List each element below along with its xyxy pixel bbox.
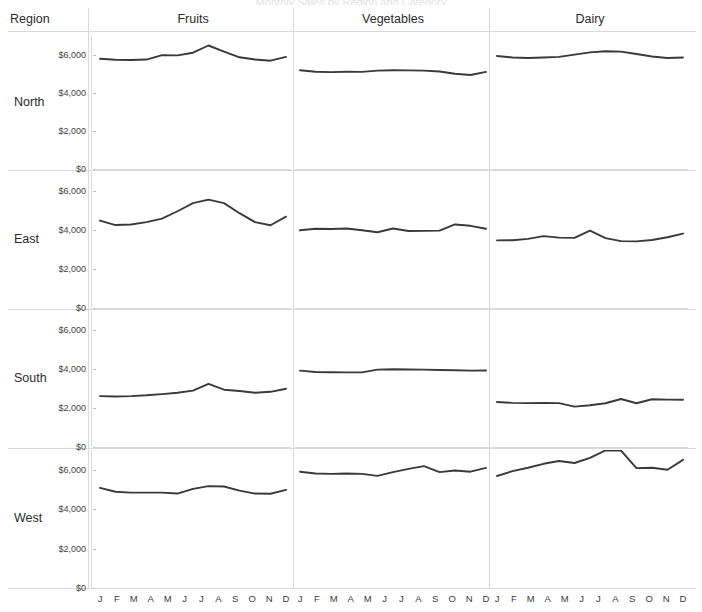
x-tick-label: J bbox=[593, 593, 603, 604]
panel-baseline bbox=[95, 588, 291, 589]
x-tick-label: J bbox=[295, 593, 305, 604]
x-tick-label: A bbox=[213, 593, 223, 604]
y-axis-line bbox=[91, 36, 92, 169]
x-tick-label: A bbox=[413, 593, 423, 604]
x-tick-label: M bbox=[329, 593, 339, 604]
y-axis-south: $6,000$4,000$2,000$0 bbox=[36, 311, 92, 447]
x-tick-label: J bbox=[95, 593, 105, 604]
y-axis-north: $6,000$4,000$2,000$0 bbox=[36, 36, 92, 169]
y-tick-label: $2,000 bbox=[58, 126, 86, 136]
row-separator-1 bbox=[8, 309, 696, 310]
series-path bbox=[300, 466, 486, 476]
x-tick-label: O bbox=[644, 593, 654, 604]
panel-north-vegetables bbox=[295, 36, 491, 169]
panel-west-fruits bbox=[95, 450, 291, 588]
y-axis-line bbox=[91, 450, 92, 588]
panel-north-fruits bbox=[95, 36, 291, 169]
x-tick-label: M bbox=[163, 593, 173, 604]
row-separator-2 bbox=[8, 448, 696, 449]
y-tick-label: $6,000 bbox=[58, 465, 86, 475]
facet-column-header-row: Region FruitsVegetablesDairy bbox=[0, 8, 702, 32]
x-tick-label: J bbox=[380, 593, 390, 604]
x-tick-label: N bbox=[661, 593, 671, 604]
line-series-north-fruits bbox=[95, 36, 291, 169]
series-path bbox=[497, 399, 683, 407]
chart-title: Monthly Sales by Region and Category bbox=[0, 0, 702, 5]
line-series-east-dairy bbox=[492, 172, 688, 308]
panel-west-dairy bbox=[492, 450, 688, 588]
y-tick-label: $6,000 bbox=[58, 50, 86, 60]
x-tick-label: N bbox=[264, 593, 274, 604]
panel-baseline bbox=[95, 308, 291, 309]
line-series-west-vegetables bbox=[295, 450, 491, 588]
line-series-west-dairy bbox=[492, 450, 688, 588]
x-tick-label: J bbox=[180, 593, 190, 604]
panel-baseline bbox=[95, 169, 291, 170]
faceted-line-chart: Monthly Sales by Region and Category Reg… bbox=[0, 0, 702, 612]
x-axis-labels-dairy: JFMAMJJASOND bbox=[492, 593, 688, 607]
panel-baseline bbox=[295, 588, 491, 589]
x-tick-label: F bbox=[312, 593, 322, 604]
x-tick-label: D bbox=[481, 593, 491, 604]
panel-south-fruits bbox=[95, 311, 291, 447]
panel-baseline bbox=[95, 447, 291, 448]
x-tick-label: M bbox=[363, 593, 373, 604]
line-series-south-vegetables bbox=[295, 311, 491, 447]
x-tick-label: A bbox=[146, 593, 156, 604]
panel-baseline bbox=[295, 169, 491, 170]
series-path bbox=[497, 231, 683, 242]
panel-baseline bbox=[295, 308, 491, 309]
x-tick-label: A bbox=[543, 593, 553, 604]
series-path bbox=[497, 450, 683, 476]
facet-column-header-fruits: Fruits bbox=[95, 8, 291, 32]
line-series-north-vegetables bbox=[295, 36, 491, 169]
x-tick-label: J bbox=[396, 593, 406, 604]
x-tick-label: D bbox=[678, 593, 688, 604]
panel-east-vegetables bbox=[295, 172, 491, 308]
line-series-south-dairy bbox=[492, 311, 688, 447]
y-tick-label: $6,000 bbox=[58, 186, 86, 196]
x-tick-label: S bbox=[430, 593, 440, 604]
panel-north-dairy bbox=[492, 36, 688, 169]
panel-baseline bbox=[492, 308, 688, 309]
x-tick-label: J bbox=[196, 593, 206, 604]
x-axis-labels-fruits: JFMAMJJASOND bbox=[95, 593, 291, 607]
series-path bbox=[300, 70, 486, 75]
x-tick-label: F bbox=[509, 593, 519, 604]
panel-baseline bbox=[492, 588, 688, 589]
y-tick-label: $0 bbox=[76, 583, 86, 593]
y-tick-label: $4,000 bbox=[58, 225, 86, 235]
y-tick-label: $6,000 bbox=[58, 325, 86, 335]
column-separator-1 bbox=[293, 8, 294, 588]
x-tick-label: D bbox=[281, 593, 291, 604]
y-tick-label: $2,000 bbox=[58, 544, 86, 554]
x-tick-label: O bbox=[447, 593, 457, 604]
header-underline bbox=[8, 31, 696, 32]
line-series-west-fruits bbox=[95, 450, 291, 588]
panel-south-vegetables bbox=[295, 311, 491, 447]
panel-east-fruits bbox=[95, 172, 291, 308]
series-path bbox=[300, 224, 486, 232]
y-tick-label: $2,000 bbox=[58, 264, 86, 274]
y-axis-east: $6,000$4,000$2,000$0 bbox=[36, 172, 92, 308]
series-path bbox=[497, 51, 683, 58]
y-axis-west: $6,000$4,000$2,000$0 bbox=[36, 450, 92, 588]
x-tick-label: N bbox=[464, 593, 474, 604]
x-tick-label: J bbox=[577, 593, 587, 604]
y-tick-label: $2,000 bbox=[58, 403, 86, 413]
panel-east-dairy bbox=[492, 172, 688, 308]
panel-south-dairy bbox=[492, 311, 688, 447]
series-path bbox=[100, 486, 286, 494]
y-axis-line bbox=[91, 172, 92, 308]
series-path bbox=[100, 46, 286, 61]
y-axis-line bbox=[91, 311, 92, 447]
x-tick-label: M bbox=[526, 593, 536, 604]
line-series-south-fruits bbox=[95, 311, 291, 447]
x-tick-label: S bbox=[230, 593, 240, 604]
x-tick-label: M bbox=[560, 593, 570, 604]
facet-column-header-vegetables: Vegetables bbox=[295, 8, 491, 32]
x-tick-label: M bbox=[129, 593, 139, 604]
series-path bbox=[300, 369, 486, 372]
line-series-east-fruits bbox=[95, 172, 291, 308]
line-series-east-vegetables bbox=[295, 172, 491, 308]
